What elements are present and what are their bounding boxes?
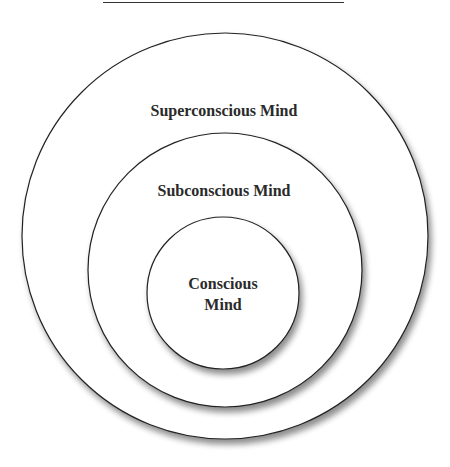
superconscious-label: Superconscious Mind xyxy=(151,102,298,120)
mind-layers-diagram: Superconscious Mind Subconscious Mind Co… xyxy=(0,0,450,467)
conscious-circle xyxy=(147,217,299,369)
conscious-label-line2: Mind xyxy=(204,296,241,313)
subconscious-label: Subconscious Mind xyxy=(158,182,291,199)
conscious-label-line1: Conscious xyxy=(188,275,257,292)
